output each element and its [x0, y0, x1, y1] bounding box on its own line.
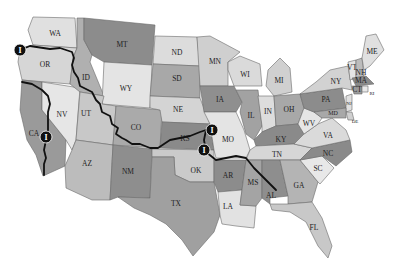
- svg-text:GA: GA: [294, 181, 305, 190]
- svg-text:NE: NE: [173, 105, 183, 114]
- svg-text:FL: FL: [310, 223, 319, 232]
- state-nm[interactable]: NM: [110, 145, 152, 200]
- svg-text:I: I: [18, 46, 21, 55]
- marker-oregon[interactable]: I: [14, 44, 26, 56]
- svg-text:VA: VA: [323, 131, 333, 140]
- state-mi[interactable]: MI: [266, 58, 292, 96]
- svg-text:ND: ND: [172, 48, 183, 57]
- svg-text:MO: MO: [222, 135, 235, 144]
- svg-text:WY: WY: [120, 84, 133, 93]
- svg-text:I: I: [202, 146, 205, 155]
- state-nd[interactable]: ND: [153, 36, 200, 66]
- svg-text:NY: NY: [331, 77, 342, 86]
- svg-text:MS: MS: [248, 178, 259, 187]
- state-nj[interactable]: NJ: [346, 94, 352, 112]
- svg-text:MT: MT: [116, 40, 128, 49]
- svg-text:NJ: NJ: [346, 101, 352, 106]
- marker-kansas-east[interactable]: I: [206, 124, 218, 136]
- svg-text:DE: DE: [352, 119, 359, 124]
- state-me[interactable]: ME: [362, 34, 384, 70]
- svg-text:LA: LA: [223, 202, 234, 211]
- state-wi[interactable]: WI: [228, 56, 262, 86]
- svg-text:I: I: [44, 133, 47, 142]
- svg-text:WV: WV: [303, 119, 316, 128]
- marker-kansas-south[interactable]: I: [198, 144, 210, 156]
- state-de[interactable]: DE: [346, 112, 358, 124]
- svg-text:MI: MI: [274, 76, 284, 85]
- svg-text:TX: TX: [171, 199, 182, 208]
- svg-text:ID: ID: [82, 73, 90, 82]
- svg-text:NM: NM: [122, 167, 134, 176]
- svg-text:SC: SC: [313, 164, 322, 173]
- state-az[interactable]: AZ: [65, 140, 113, 200]
- svg-text:UT: UT: [81, 109, 91, 118]
- svg-text:OR: OR: [40, 60, 50, 69]
- us-map: WA OR CA NV ID MT WY UT AZ CO NM: [0, 0, 403, 276]
- svg-text:RI: RI: [370, 91, 375, 96]
- svg-text:IN: IN: [264, 107, 272, 116]
- state-wy[interactable]: WY: [102, 62, 152, 108]
- state-fl[interactable]: FL: [270, 202, 332, 258]
- svg-text:MA: MA: [355, 76, 368, 85]
- svg-text:CO: CO: [131, 123, 142, 132]
- svg-text:AR: AR: [223, 171, 233, 180]
- svg-text:I: I: [210, 126, 213, 135]
- svg-text:AZ: AZ: [82, 159, 92, 168]
- state-mt[interactable]: MT: [84, 18, 155, 65]
- svg-text:CT: CT: [352, 85, 362, 94]
- state-ri[interactable]: RI: [362, 86, 375, 96]
- svg-text:MN: MN: [209, 57, 222, 66]
- svg-text:WA: WA: [49, 29, 61, 38]
- svg-text:KY: KY: [276, 135, 287, 144]
- svg-text:NV: NV: [57, 110, 68, 119]
- svg-text:ME: ME: [366, 47, 378, 56]
- state-ar[interactable]: AR: [214, 160, 246, 192]
- state-ia[interactable]: IA: [200, 86, 242, 112]
- svg-text:WI: WI: [240, 70, 250, 79]
- svg-text:IL: IL: [247, 111, 254, 120]
- svg-text:SD: SD: [172, 74, 182, 83]
- svg-text:PA: PA: [322, 95, 331, 104]
- svg-text:IA: IA: [216, 95, 224, 104]
- state-ny[interactable]: NY: [300, 66, 352, 94]
- state-wa[interactable]: WA: [28, 17, 77, 48]
- svg-text:CA: CA: [29, 129, 40, 138]
- svg-text:NC: NC: [323, 149, 333, 158]
- state-co[interactable]: CO: [113, 106, 162, 148]
- svg-text:OH: OH: [284, 105, 295, 114]
- state-ct[interactable]: CT: [352, 85, 362, 94]
- state-sd[interactable]: SD: [150, 64, 200, 98]
- svg-text:OK: OK: [191, 166, 202, 175]
- svg-text:TN: TN: [272, 150, 283, 159]
- marker-california[interactable]: I: [40, 131, 52, 143]
- svg-text:AL: AL: [266, 191, 276, 200]
- svg-text:MD: MD: [328, 110, 338, 116]
